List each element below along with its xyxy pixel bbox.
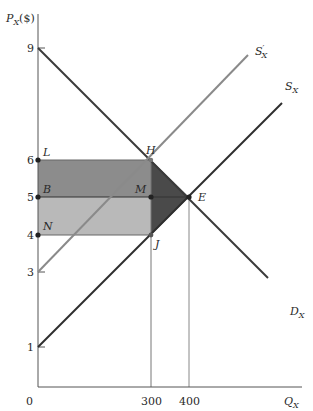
point-m <box>148 194 153 199</box>
label-h: H <box>145 144 156 157</box>
y-tick-6: 6 <box>27 154 34 167</box>
diagram: PX($) 9 6 5 4 3 1 0 300 400 QX L B N H M… <box>0 0 313 411</box>
point-e <box>186 194 191 199</box>
origin-label: 0 <box>26 395 33 408</box>
svg-text:PX($): PX($) <box>5 12 35 27</box>
label-n: N <box>42 220 53 233</box>
svg-text:DX: DX <box>289 305 305 320</box>
point-l <box>35 157 40 162</box>
label-b: B <box>42 183 51 196</box>
y-tick-3: 3 <box>27 266 34 279</box>
x-tick-300: 300 <box>141 395 162 408</box>
point-b <box>35 194 40 199</box>
point-h <box>149 158 153 162</box>
y-tick-1: 1 <box>27 341 34 354</box>
x-axis-label: Q <box>284 395 293 408</box>
label-l: L <box>42 146 50 159</box>
y-tick-5: 5 <box>27 191 34 204</box>
label-m: M <box>134 183 147 196</box>
label-j: J <box>153 238 160 251</box>
point-n <box>35 232 40 237</box>
x-tick-400: 400 <box>179 395 200 408</box>
label-demand: D <box>289 305 299 318</box>
svg-text:S′X: S′X <box>255 43 267 60</box>
y-tick-9: 9 <box>27 42 34 55</box>
region-bmjn <box>38 197 151 235</box>
y-tick-4: 4 <box>27 229 34 242</box>
svg-text:QX: QX <box>284 395 299 410</box>
point-j <box>149 233 154 238</box>
svg-text:SX: SX <box>285 80 299 95</box>
label-e: E <box>197 191 206 204</box>
